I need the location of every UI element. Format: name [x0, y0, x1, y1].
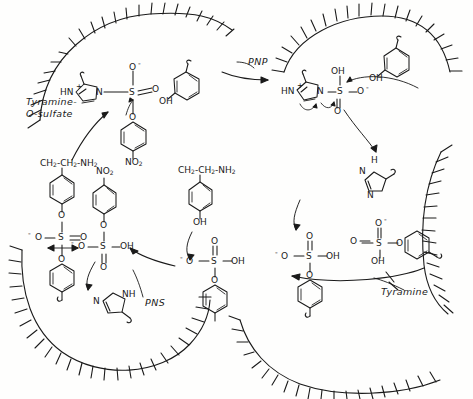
charge-minus-bottomright: - [275, 248, 278, 257]
product-label-line1: Tyramine- [26, 96, 77, 107]
atom-label-oh-topright: OH [331, 66, 345, 76]
atom-label-o-top-bottomright: O [306, 231, 313, 241]
atom-label-o-ester-topleft: O [129, 112, 136, 122]
atom-label-o-anion-tyramine-sulfate: O [35, 232, 42, 242]
reaction-label-pnp: PNP [248, 56, 268, 67]
charge-minus-right-sulfate: - [384, 215, 387, 224]
atom-label-hn-topright: HN [281, 86, 295, 96]
atom-label-o-double-center-sulfate: O [211, 275, 218, 285]
atom-label-oh-right-sulfate: OH [371, 256, 385, 266]
charge-minus-center-sulfate: - [180, 253, 183, 262]
atom-label-s-center-sulfate: S [211, 256, 217, 266]
atom-label-o-anion-bottomright: O [281, 251, 288, 261]
atom-label-o-right-topleft: O [152, 84, 159, 94]
atom-label-s-topright: S [337, 86, 343, 96]
atom-label-oh-pns: OH [120, 241, 134, 251]
atom-label-s-right-sulfate: S [376, 238, 382, 248]
tyramine-sulfate-arrow [72, 112, 108, 160]
atom-label-o-ester-right-sulfate: O [396, 238, 403, 248]
top-right-imidazolium-ring [297, 70, 335, 110]
atom-label-o-double-pns: O [100, 262, 107, 272]
atom-label-nitro-pns: NO2 [96, 166, 114, 176]
atom-label-oh-bottomright: OH [326, 251, 340, 261]
nitrophenyl-sulfate-structure [86, 178, 120, 290]
charge-minus-tyramine-sulfate: - [28, 229, 31, 238]
atom-label-s-topleft: S [129, 87, 135, 97]
atom-label-s-tyramine-sulfate: S [58, 232, 64, 242]
atom-label-o-top-right-sulfate: O [375, 218, 382, 228]
top-left-sulfate-group [104, 71, 152, 115]
bottom-right-membrane [229, 316, 440, 399]
atom-label-o-anion-center-sulfate: O [186, 256, 193, 266]
atom-label-o-ester-tyramine-sulfate: O [58, 210, 65, 220]
atom-label-o-ester-bottomright: O [306, 270, 313, 280]
atom-label-n-top-right-imidazole: N [359, 166, 366, 176]
atom-label-o-top-topleft: O [129, 62, 136, 72]
top-left-nitrophenyl-ring [121, 122, 146, 159]
chain-label-tyramine: CH2-CH2-NH2 [178, 165, 236, 175]
atom-label-n-topleft: N [96, 87, 103, 97]
charge-minus-topright: - [366, 83, 369, 92]
right-imidazole-ring [365, 169, 395, 191]
atom-label-nh-center-imidazole: NH [122, 289, 136, 299]
top-right-membrane [272, 3, 462, 72]
atom-label-hn-topleft: HN [60, 87, 74, 97]
charge-minus-topleft: - [138, 59, 141, 68]
atom-label-o-left-right-sulfate: O [350, 236, 357, 246]
atom-label-o-lower-tyramine-sulfate: O [58, 254, 65, 264]
atom-label-n-center-imidazole: N [93, 296, 100, 306]
pns-arrow [130, 248, 175, 297]
reaction-scheme-figure: PNP Tyramine PNS Tyramine- O-sulfate HN … [0, 0, 473, 399]
atom-label-o-anion-topright: O [357, 86, 364, 96]
atom-label-o-double-topright: O [334, 106, 341, 116]
atom-label-o-ester-pns: O [100, 220, 107, 230]
top-left-phenol-ring [168, 60, 199, 100]
atom-label-nitro-topleft: NO2 [125, 157, 143, 167]
atom-label-n-topright: N [317, 86, 324, 96]
atom-label-n-bottom-right-imidazole: N [367, 190, 374, 200]
atom-label-oh-center-sulfate: OH [231, 256, 245, 266]
reaction-label-pns: PNS [145, 297, 165, 308]
atom-label-oh-topright-phenol: OH [369, 73, 383, 83]
atom-label-oh-tyramine: OH [193, 217, 207, 227]
charge-plus-topleft: + [76, 82, 82, 91]
chain-label-tyramine-sulfate: CH2-CH2-NH2 [40, 158, 98, 168]
top-right-phenol-ring [378, 36, 409, 77]
charge-minus-pns: - [71, 238, 74, 247]
product-label-line2: O-sulfate [26, 108, 73, 119]
reaction-label-tyramine: Tyramine [381, 286, 428, 297]
atom-label-oh-topleft-phenol: OH [159, 96, 173, 106]
atom-label-h-right-imidazole: H [371, 155, 378, 165]
atom-label-o-anion-pns: O [78, 241, 85, 251]
atom-label-s-pns: S [100, 241, 106, 251]
scheme-canvas [0, 0, 473, 399]
charge-plus-topright: + [297, 81, 303, 90]
atom-label-o-top-center-sulfate: O [211, 236, 218, 246]
atom-label-s-bottomright: S [306, 251, 312, 261]
